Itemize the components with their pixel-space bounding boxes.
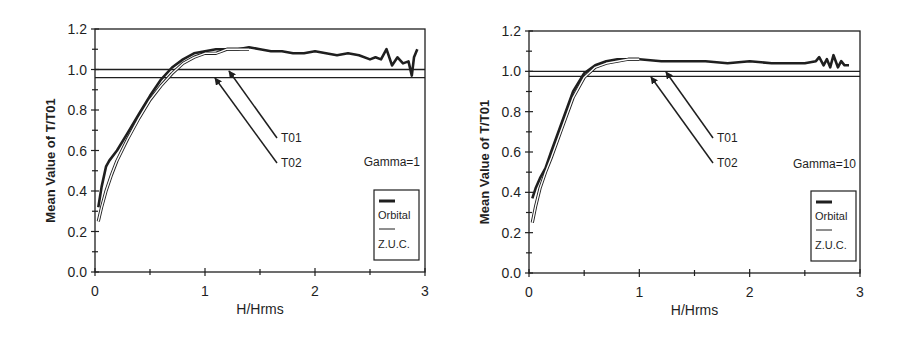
gamma-annotation: Gamma=1 bbox=[364, 155, 421, 169]
y-tick-label: 1.2 bbox=[502, 23, 522, 39]
y-tick-label: 1.2 bbox=[68, 21, 88, 37]
legend-label-zuc: Z.U.C. bbox=[378, 238, 410, 250]
x-tick-label: 1 bbox=[635, 284, 643, 300]
y-axis-title: Mean Value of T/T01 bbox=[43, 98, 58, 222]
figure-canvas: 0.00.20.40.60.81.01.20123H/HrmsMean Valu… bbox=[0, 0, 898, 339]
chart-panel-gamma-10: 0.00.20.40.60.81.01.20123H/HrmsMean Valu… bbox=[477, 23, 864, 318]
y-tick-label: 0.8 bbox=[68, 102, 88, 118]
x-tick-label: 3 bbox=[421, 283, 429, 299]
y-tick-label: 0.8 bbox=[502, 104, 522, 120]
y-tick-label: 0.2 bbox=[68, 224, 88, 240]
legend: OrbitalZ.U.C. bbox=[374, 190, 419, 260]
x-tick-label: 2 bbox=[311, 283, 319, 299]
x-tick-label: 1 bbox=[201, 283, 209, 299]
y-tick-label: 0.0 bbox=[68, 264, 88, 280]
series-line-zuc-outline bbox=[532, 59, 639, 222]
arrow-t02-icon bbox=[215, 78, 277, 163]
arrow-label-t02: T02 bbox=[281, 156, 302, 170]
y-tick-label: 0.6 bbox=[68, 143, 88, 159]
legend: OrbitalZ.U.C. bbox=[811, 191, 856, 261]
legend-label-orbital: Orbital bbox=[378, 209, 410, 221]
chart-panel-gamma-1: 0.00.20.40.60.81.01.20123H/HrmsMean Valu… bbox=[43, 21, 429, 317]
arrow-label-t01: T01 bbox=[717, 131, 738, 145]
series-line-zuc-inner bbox=[98, 49, 249, 221]
y-tick-label: 0.4 bbox=[68, 183, 88, 199]
y-tick-label: 1.0 bbox=[502, 63, 522, 79]
arrow-t02-icon bbox=[651, 77, 713, 163]
y-tick-label: 0.4 bbox=[502, 184, 522, 200]
series-line-zuc-inner bbox=[532, 59, 639, 222]
legend-label-orbital: Orbital bbox=[815, 210, 847, 222]
plot-frame bbox=[529, 31, 860, 273]
x-tick-label: 0 bbox=[525, 284, 533, 300]
x-tick-label: 0 bbox=[91, 283, 99, 299]
series-line-zuc-outline bbox=[98, 49, 249, 221]
x-axis-title: H/Hrms bbox=[236, 301, 283, 317]
arrow-label-t02: T02 bbox=[717, 156, 738, 170]
x-tick-label: 2 bbox=[746, 284, 754, 300]
arrow-label-t01: T01 bbox=[281, 131, 302, 145]
y-tick-label: 1.0 bbox=[68, 62, 88, 78]
y-tick-label: 0.2 bbox=[502, 225, 522, 241]
y-tick-label: 0.0 bbox=[502, 265, 522, 281]
x-tick-label: 3 bbox=[856, 284, 864, 300]
legend-label-zuc: Z.U.C. bbox=[815, 239, 847, 251]
arrow-t01-icon bbox=[666, 72, 713, 138]
x-axis-title: H/Hrms bbox=[671, 302, 718, 318]
y-axis-title: Mean Value of T/T01 bbox=[477, 100, 492, 224]
gamma-annotation: Gamma=10 bbox=[793, 157, 856, 171]
series-line-orbital bbox=[98, 47, 417, 207]
y-tick-label: 0.6 bbox=[502, 144, 522, 160]
arrow-t01-icon bbox=[229, 71, 277, 138]
